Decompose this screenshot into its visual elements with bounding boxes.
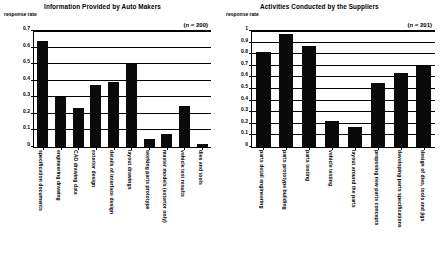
y-axis-tick-label: 0: [234, 141, 248, 147]
y-axis-tick-label: 0.4: [234, 95, 248, 101]
y-axis-tick-label: 0.8: [234, 48, 248, 54]
x-axis-label-slot: CAD drawing data: [69, 150, 87, 258]
bar[interactable]: [325, 121, 339, 147]
y-axis-tick-label: 0.4: [16, 75, 30, 81]
bar[interactable]: [256, 52, 270, 147]
x-axis-label: vehicle testing: [328, 150, 334, 186]
x-axis-label: details of interface design: [109, 150, 115, 214]
y-axis-caption-left-text: response rate: [4, 11, 37, 17]
bar[interactable]: [394, 73, 408, 147]
bar[interactable]: [179, 106, 190, 147]
y-axis-caption-left: response rate: [4, 11, 37, 17]
x-axis-label: specification documents: [38, 150, 44, 211]
x-axis-label: parts testing: [305, 150, 311, 181]
x-axis-label-slot: details of interface design: [104, 150, 122, 258]
y-axis-caption-right: response rate: [226, 11, 259, 17]
y-axis-tick-label: 0.6: [234, 71, 248, 77]
bar[interactable]: [371, 83, 385, 147]
bar-slot: [275, 31, 298, 147]
bar-slot: [252, 31, 275, 147]
y-axis-tick-label: 0.2: [234, 118, 248, 124]
bar-slot: [389, 31, 412, 147]
x-axis-label: working parts prototype: [145, 150, 151, 209]
y-axis-tick-label: 0.1: [234, 129, 248, 135]
x-axis-label-slot: proposing new parts concepts: [366, 150, 389, 258]
bar[interactable]: [279, 34, 293, 147]
bar-slot: [52, 31, 70, 147]
y-axis-tick-label: 0.6: [16, 42, 30, 48]
bar[interactable]: [348, 127, 362, 147]
bar-slot: [412, 31, 435, 147]
bar-slot: [87, 31, 105, 147]
sample-size-label-left: (n = 200): [183, 22, 208, 28]
x-axis-label-slot: specification documents: [33, 150, 51, 258]
chart-panel-right: Activities Conducted by the Suppliers re…: [222, 0, 444, 261]
bar-slot: [123, 31, 141, 147]
x-axis-label: master models (exterior only): [163, 150, 169, 223]
plot-area-right: 00.10.20.30.40.50.60.70.80.91: [251, 31, 435, 148]
bar-slot: [176, 31, 194, 147]
bar[interactable]: [37, 41, 48, 147]
y-axis-tick-label: 0.5: [234, 83, 248, 89]
figure-container: Information Provided by Auto Makers resp…: [0, 0, 444, 261]
y-axis-tick-label: 0: [16, 141, 30, 147]
bar-series-left: [34, 31, 211, 147]
x-axis-label-slot: working parts prototype: [140, 150, 158, 258]
x-axis-label-slot: design of dies, tools and jigs: [412, 150, 435, 258]
sample-size-label-right: (n = 201): [407, 22, 432, 28]
x-axis-label: developing parts specifications: [397, 150, 403, 228]
x-axis-label: vehicle test results: [181, 150, 187, 197]
x-axis-label-slot: developing parts specifications: [389, 150, 412, 258]
bar-slot: [105, 31, 123, 147]
x-axis-label: layout around the parts: [351, 150, 357, 208]
chart-title-right: Activities Conducted by the Suppliers: [260, 3, 379, 10]
x-axis-label: design of dies, tools and jigs: [420, 150, 426, 221]
bar[interactable]: [55, 97, 66, 147]
x-axis-labels-right: parts detail engineeringparts prototype …: [251, 150, 435, 258]
x-axis-label: dies and tools: [198, 150, 204, 185]
y-axis-tick-label: 0.3: [234, 106, 248, 112]
x-axis-label-slot: parts prototype building: [274, 150, 297, 258]
bar[interactable]: [144, 139, 155, 147]
x-axis-label-slot: engineering drawing: [51, 150, 69, 258]
bar-slot: [366, 31, 389, 147]
bar[interactable]: [302, 46, 316, 147]
x-axis-label: CAD drawing data: [74, 150, 80, 195]
bar-slot: [69, 31, 87, 147]
bar-series-right: [252, 31, 435, 147]
y-axis-tick-label: 0.7: [16, 25, 30, 31]
bar-slot: [193, 31, 211, 147]
y-axis-tick-label: 0.2: [16, 108, 30, 114]
x-axis-label: parts prototype building: [282, 150, 288, 210]
y-axis-caption-right-text: response rate: [226, 11, 259, 17]
y-axis-tick-label: 0.1: [16, 124, 30, 130]
x-axis-label-slot: master models (exterior only): [158, 150, 176, 258]
x-axis-label-slot: parts detail engineering: [251, 150, 274, 258]
bar[interactable]: [90, 85, 101, 147]
x-axis-label: parts detail engineering: [259, 150, 265, 209]
bar[interactable]: [73, 108, 84, 147]
x-axis-label-slot: layout drawings: [122, 150, 140, 258]
y-axis-tick-label: 0.5: [16, 58, 30, 64]
bar[interactable]: [416, 66, 430, 147]
bar[interactable]: [161, 134, 172, 147]
x-axis-label: layout drawings: [127, 150, 133, 190]
bar-slot: [321, 31, 344, 147]
x-axis-label: engineering drawing: [56, 150, 62, 201]
bar-slot: [140, 31, 158, 147]
bar[interactable]: [126, 64, 137, 147]
y-axis-tick-label: 0.9: [234, 37, 248, 43]
y-axis-tick-label: 0.7: [234, 60, 248, 66]
plot-area-left: 00.10.20.30.40.50.60.7: [33, 31, 211, 148]
bar[interactable]: [108, 82, 119, 147]
chart-title-left: Information Provided by Auto Makers: [44, 3, 161, 10]
x-axis-labels-left: specification documentsengineering drawi…: [33, 150, 211, 258]
bar-slot: [34, 31, 52, 147]
bar-slot: [298, 31, 321, 147]
x-axis-label-slot: exterior design: [86, 150, 104, 258]
bar-slot: [344, 31, 367, 147]
x-axis-label-slot: dies and tools: [193, 150, 211, 258]
x-axis-label-slot: parts testing: [297, 150, 320, 258]
x-axis-label-slot: vehicle test results: [175, 150, 193, 258]
bar-slot: [158, 31, 176, 147]
